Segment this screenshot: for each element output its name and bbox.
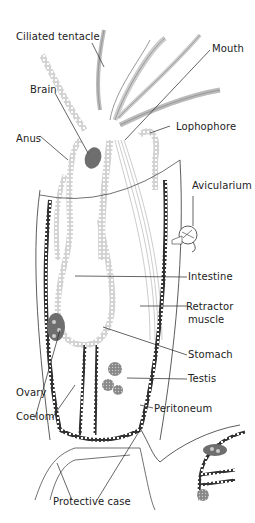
label-lophophore: Lophophore [176, 121, 236, 133]
label-peritoneum: Peritoneum [154, 403, 212, 415]
ovary-organ [47, 313, 65, 341]
brain-organ [82, 145, 105, 171]
label-mouth: Mouth [212, 43, 244, 55]
label-ovary: Ovary [16, 387, 46, 399]
label-retractor-muscle-line1: Retractor [186, 301, 233, 313]
label-ciliated-tentacle: Ciliated tentacle [16, 31, 100, 43]
lophophore-arm [140, 131, 156, 190]
testis-organ [108, 362, 122, 376]
tentacles [42, 30, 220, 130]
label-avicularium: Avicularium [192, 180, 252, 192]
label-testis: Testis [188, 373, 216, 385]
bryozoan-diagram [0, 0, 255, 523]
label-protective-case: Protective case [53, 496, 131, 508]
label-stomach: Stomach [188, 349, 233, 361]
label-intestine: Intestine [188, 271, 233, 283]
label-brain: Brain [30, 84, 57, 96]
label-retractor-muscle-line2: muscle [188, 314, 224, 326]
label-coelom: Coelom [16, 411, 55, 423]
avicularium-organ [172, 226, 197, 252]
label-anus: Anus [16, 133, 41, 145]
